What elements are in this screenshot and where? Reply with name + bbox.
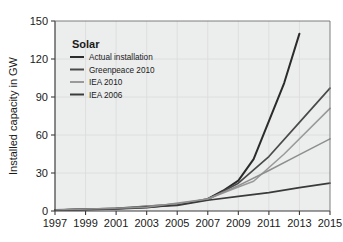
x-tick-label: 2013 — [287, 217, 311, 229]
solar-capacity-chart: 0306090120150 19971999200120032005200720… — [0, 0, 343, 242]
legend-entry-label: Actual installation — [89, 53, 153, 62]
y-tick-label: 0 — [42, 205, 48, 217]
y-tick-label: 150 — [30, 15, 48, 27]
legend-entry-label: Greenpeace 2010 — [89, 66, 155, 75]
legend-title: Solar — [72, 38, 100, 50]
x-tick-label: 2003 — [134, 217, 158, 229]
legend-entry-label: IEA 2010 — [89, 78, 123, 87]
x-tick-label: 2007 — [196, 217, 220, 229]
chart-canvas: 0306090120150 19971999200120032005200720… — [0, 0, 343, 242]
y-tick-label: 30 — [36, 167, 48, 179]
x-tick-label: 2009 — [226, 217, 250, 229]
y-axis-label: Installed capacity in GW — [7, 56, 19, 175]
legend-entry-label: IEA 2006 — [89, 91, 123, 100]
y-tick-label: 60 — [36, 129, 48, 141]
y-tick-label: 90 — [36, 91, 48, 103]
y-tick-label: 120 — [30, 53, 48, 65]
x-tick-label: 1997 — [43, 217, 67, 229]
x-tick-label: 2011 — [257, 217, 281, 229]
x-tick-label: 1999 — [73, 217, 97, 229]
x-tick-label: 2001 — [104, 217, 128, 229]
x-tick-label: 2015 — [318, 217, 342, 229]
x-tick-label: 2005 — [165, 217, 189, 229]
